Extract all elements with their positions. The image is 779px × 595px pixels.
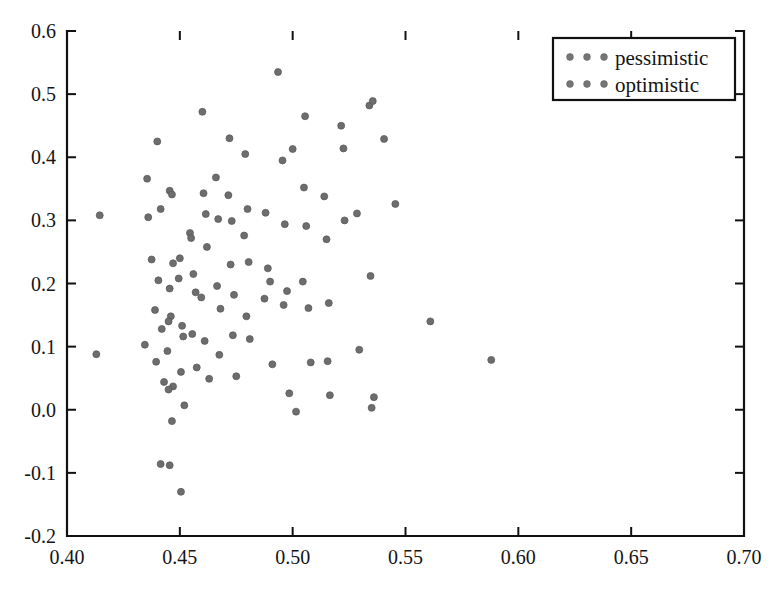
data-point — [264, 265, 271, 272]
data-point — [179, 322, 186, 329]
data-point — [166, 462, 173, 469]
data-point — [180, 333, 187, 340]
y-tick-label: 0.1 — [31, 336, 56, 358]
data-point — [165, 386, 172, 393]
data-point — [267, 278, 274, 285]
data-point — [165, 318, 172, 325]
scatter-plot-figure: -0.2-0.10.00.10.20.30.40.50.60.400.450.5… — [0, 0, 779, 595]
data-point — [216, 351, 223, 358]
x-tick-label: 0.50 — [275, 546, 310, 568]
data-point — [340, 145, 347, 152]
data-point — [488, 356, 495, 363]
y-tick-label: -0.1 — [24, 462, 56, 484]
y-tick-label: 0.4 — [31, 146, 56, 168]
data-point — [158, 325, 165, 332]
legend: pessimisticoptimistic — [553, 38, 735, 100]
data-point — [370, 394, 377, 401]
data-point — [230, 291, 237, 298]
data-point — [192, 289, 199, 296]
data-point — [368, 404, 375, 411]
data-point — [302, 113, 309, 120]
legend-marker-pessimistic — [584, 54, 591, 61]
legend-marker-optimistic — [584, 81, 591, 88]
y-tick-label: 0.0 — [31, 399, 56, 421]
data-point — [145, 214, 152, 221]
data-point — [300, 184, 307, 191]
legend-label-optimistic: optimistic — [615, 73, 699, 97]
data-point — [181, 402, 188, 409]
x-tick-label: 0.60 — [501, 546, 536, 568]
data-point — [190, 271, 197, 278]
data-point — [262, 209, 269, 216]
x-tick-label: 0.45 — [162, 546, 197, 568]
data-point — [228, 218, 235, 225]
data-point — [168, 191, 175, 198]
data-point — [289, 146, 296, 153]
data-point — [229, 332, 236, 339]
x-tick-label: 0.55 — [388, 546, 423, 568]
data-point — [93, 351, 100, 358]
data-point — [96, 212, 103, 219]
data-point — [203, 243, 210, 250]
data-point — [325, 300, 332, 307]
data-point — [275, 69, 282, 76]
data-point — [144, 175, 151, 182]
data-point — [215, 216, 222, 223]
axis-frame — [67, 31, 744, 536]
axis-frame-path — [67, 31, 744, 536]
data-point — [245, 259, 252, 266]
data-point — [281, 221, 288, 228]
y-tick-label: 0.2 — [31, 273, 56, 295]
data-point — [168, 418, 175, 425]
data-point — [284, 288, 291, 295]
data-point — [341, 217, 348, 224]
data-points-group — [93, 69, 495, 496]
data-point — [353, 210, 360, 217]
axis-tick-labels: -0.2-0.10.00.10.20.30.40.50.60.400.450.5… — [24, 20, 761, 568]
legend-marker-optimistic — [567, 81, 574, 88]
legend-label-pessimistic: pessimistic — [615, 46, 708, 70]
data-point — [225, 192, 232, 199]
data-point — [279, 157, 286, 164]
data-point — [200, 190, 207, 197]
data-point — [242, 151, 249, 158]
data-point — [369, 98, 376, 105]
data-point — [214, 283, 221, 290]
data-point — [269, 361, 276, 368]
data-point — [338, 122, 345, 129]
data-point — [307, 359, 314, 366]
data-point — [212, 174, 219, 181]
data-point — [227, 261, 234, 268]
x-tick-label: 0.40 — [50, 546, 85, 568]
data-point — [154, 138, 161, 145]
data-point — [153, 358, 160, 365]
data-point — [286, 390, 293, 397]
data-point — [141, 341, 148, 348]
data-point — [233, 373, 240, 380]
legend-marker-pessimistic — [601, 54, 608, 61]
y-tick-label: 0.3 — [31, 209, 56, 231]
data-point — [170, 260, 177, 267]
data-point — [201, 337, 208, 344]
data-point — [381, 135, 388, 142]
data-point — [175, 275, 182, 282]
y-tick-label: -0.2 — [24, 525, 56, 547]
data-point — [261, 295, 268, 302]
data-point — [176, 255, 183, 262]
data-point — [198, 294, 205, 301]
data-point — [293, 408, 300, 415]
data-point — [161, 378, 168, 385]
data-point — [326, 392, 333, 399]
data-point — [217, 305, 224, 312]
data-point — [177, 368, 184, 375]
y-tick-label: 0.5 — [31, 83, 56, 105]
data-point — [356, 346, 363, 353]
legend-marker-optimistic — [601, 81, 608, 88]
x-tick-label: 0.70 — [727, 546, 762, 568]
data-point — [157, 206, 164, 213]
data-point — [427, 318, 434, 325]
axis-ticks — [67, 31, 744, 536]
x-tick-label: 0.65 — [614, 546, 649, 568]
data-point — [280, 301, 287, 308]
data-point — [148, 256, 155, 263]
